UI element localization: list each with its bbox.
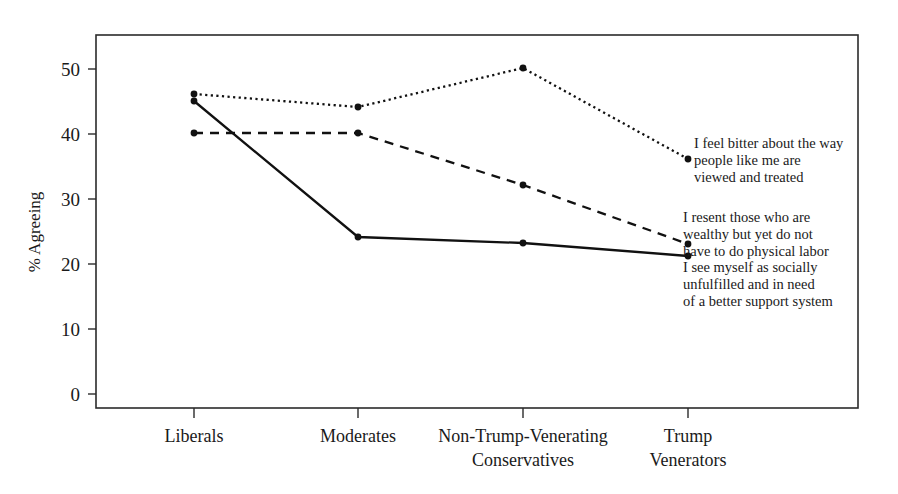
annotation-bitter-line-2: people like me are xyxy=(694,152,801,168)
series-bitter-point-trump-venerators xyxy=(685,156,692,163)
annotation-resent-line-2: wealthy but yet do not xyxy=(683,226,813,242)
series-resent-point-non-trump-venerating-conservatives xyxy=(520,182,527,189)
x-label-liberals: Liberals xyxy=(165,426,224,446)
chart-figure: 0 10 20 30 40 50 % Agreeing Liberals Mod… xyxy=(0,0,898,494)
x-label-conservatives: Conservatives xyxy=(472,450,574,470)
series-unfulfilled-point-liberals xyxy=(191,98,198,105)
series-bitter-point-non-trump-venerating-conservatives xyxy=(520,65,527,72)
annotation-resent-line-3: have to do physical labor xyxy=(683,243,829,259)
y-tick-label-30: 30 xyxy=(61,189,80,210)
annotation-bitter-line-3: viewed and treated xyxy=(694,169,804,185)
y-axis-title: % Agreeing xyxy=(25,191,44,272)
x-label-moderates: Moderates xyxy=(320,426,396,446)
y-tick-label-20: 20 xyxy=(61,254,80,275)
annotation-unfulfilled-line-2: unfulfilled and in need xyxy=(683,276,815,292)
x-label-trump: Trump xyxy=(664,426,712,446)
y-tick-label-0: 0 xyxy=(71,384,81,405)
annotation-bitter-line-1: I feel bitter about the way xyxy=(694,135,844,151)
series-annotation-resent: I resent those who are wealthy but yet d… xyxy=(683,209,829,259)
annotation-resent-line-1: I resent those who are xyxy=(683,209,810,225)
series-annotation-unfulfilled: I see myself as socially unfulfilled and… xyxy=(683,259,834,309)
y-tick-label-40: 40 xyxy=(61,124,80,145)
x-label-venerators: Venerators xyxy=(650,450,727,470)
series-bitter-point-moderates xyxy=(355,104,362,111)
y-tick-label-50: 50 xyxy=(61,59,80,80)
series-bitter-point-liberals xyxy=(191,91,198,98)
series-resent-point-liberals xyxy=(191,130,198,137)
series-resent-point-moderates xyxy=(355,130,362,137)
series-unfulfilled-point-moderates xyxy=(355,234,362,241)
y-tick-label-10: 10 xyxy=(61,319,80,340)
line-chart-svg: 0 10 20 30 40 50 % Agreeing Liberals Mod… xyxy=(0,0,898,494)
series-unfulfilled-point-non-trump-venerating-conservatives xyxy=(520,240,527,247)
annotation-unfulfilled-line-1: I see myself as socially xyxy=(683,259,818,275)
x-label-non-trump-venerating: Non-Trump-Venerating xyxy=(438,426,607,446)
annotation-unfulfilled-line-3: of a better support system xyxy=(683,293,834,309)
